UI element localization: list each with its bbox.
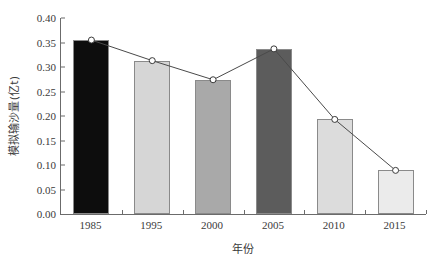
y-tick-label: 0.35 [37, 37, 56, 48]
y-axis-title-text: 模拟输沙量(亿t) [5, 76, 21, 157]
bar-1995 [134, 61, 170, 214]
x-tick-mark [244, 210, 245, 214]
x-tick-label: 2005 [262, 220, 284, 231]
y-axis-tick-labels: 0.400.350.300.250.200.150.100.050.00 [20, 18, 56, 214]
y-tick-label: 0.20 [37, 111, 56, 122]
y-tick-mark [61, 67, 65, 68]
y-tick-label: 0.05 [37, 184, 56, 195]
x-tick-mark [426, 210, 427, 214]
bars-layer [61, 18, 426, 214]
y-tick-mark [61, 189, 65, 190]
y-tick-mark [61, 140, 65, 141]
bar-1985 [73, 40, 109, 214]
y-tick-mark [61, 165, 65, 166]
y-tick-label: 0.00 [37, 209, 56, 220]
y-tick-label: 0.15 [37, 135, 56, 146]
y-tick-mark [61, 116, 65, 117]
x-tick-label: 2015 [384, 220, 406, 231]
x-tick-label: 1985 [79, 220, 101, 231]
x-axis-title: 年份 [60, 240, 425, 256]
x-tick-mark [122, 210, 123, 214]
y-tick-label: 0.30 [37, 62, 56, 73]
plot-area [60, 18, 426, 215]
y-tick-mark [61, 91, 65, 92]
x-tick-label: 2010 [323, 220, 345, 231]
bar-2010 [317, 119, 353, 214]
bar-2015 [378, 170, 414, 214]
y-tick-label: 0.25 [37, 86, 56, 97]
bar-2000 [195, 80, 231, 214]
x-axis-tick-labels: 198519952000200520102015 [60, 220, 425, 236]
x-tick-label: 1995 [140, 220, 162, 231]
y-tick-mark [61, 42, 65, 43]
bar-2005 [256, 49, 292, 214]
x-tick-mark [183, 210, 184, 214]
y-tick-label: 0.10 [37, 160, 56, 171]
x-tick-label: 2000 [201, 220, 223, 231]
y-tick-label: 0.40 [37, 13, 56, 24]
y-tick-mark [61, 18, 65, 19]
x-tick-mark [365, 210, 366, 214]
x-tick-mark [304, 210, 305, 214]
chart-figure: 模拟输沙量(亿t) 0.400.350.300.250.200.150.100.… [0, 0, 443, 272]
